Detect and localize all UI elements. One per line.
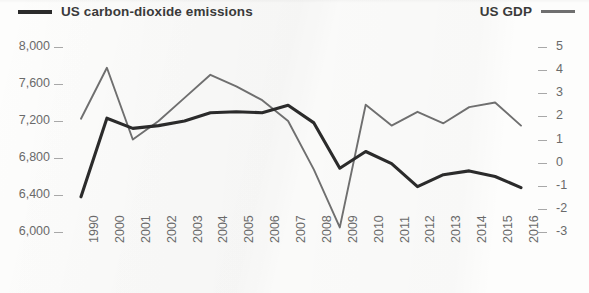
y-left-tick-label: 8,000 <box>6 39 50 53</box>
y-left-tick-mark <box>54 195 63 196</box>
x-axis-tick-label: 2014 <box>475 215 489 243</box>
line-swatch-icon-gdp <box>541 10 575 13</box>
plot-area: 8,0007,6007,2006,8006,4006,000 543210-1-… <box>0 30 589 240</box>
y-right-tick-mark <box>538 116 547 117</box>
line-series-gdp <box>81 68 521 228</box>
y-left-tick-label: 7,600 <box>6 76 50 90</box>
y-right-tick-label: 4 <box>556 62 586 76</box>
y-right-tick-mark <box>538 209 547 210</box>
x-axis-tick-label: 2016 <box>527 215 541 243</box>
chart-legend: US carbon-dioxide emissions US GDP <box>0 4 589 28</box>
y-left-tick-label: 6,400 <box>6 187 50 201</box>
y-right-tick-mark <box>538 186 547 187</box>
x-axis-tick-label: 2005 <box>242 215 256 243</box>
y-right-tick-mark <box>538 70 547 71</box>
y-left-tick-mark <box>54 47 63 48</box>
series-gdp-group <box>81 68 521 228</box>
y-left-tick-mark <box>54 232 63 233</box>
chart-figure: US carbon-dioxide emissions US GDP 8,000… <box>0 0 589 293</box>
y-right-tick-mark <box>538 163 547 164</box>
y-right-tick-label: -2 <box>556 201 586 215</box>
x-axis-tick-label: 2006 <box>268 215 282 243</box>
x-axis-tick-label: 2011 <box>398 216 412 243</box>
line-series-co2 <box>81 105 521 197</box>
x-axis-tick-label: 2015 <box>501 215 515 243</box>
y-right-tick-label: 2 <box>556 108 586 122</box>
y-left-tick-label: 6,000 <box>6 224 50 238</box>
y-right-tick-mark <box>538 140 547 141</box>
y-left-tick-label: 6,800 <box>6 150 50 164</box>
x-axis-tick-label: 2008 <box>320 215 334 243</box>
series-co2-group <box>81 105 521 197</box>
y-left-tick-mark <box>54 84 63 85</box>
x-axis-tick-label: 2009 <box>346 215 360 243</box>
legend-label-co2: US carbon-dioxide emissions <box>61 4 253 19</box>
y-left-tick-mark <box>54 121 63 122</box>
y-left-tick-label: 7,200 <box>6 113 50 127</box>
y-left-tick-mark <box>54 158 63 159</box>
x-axis-tick-label: 1990 <box>87 215 101 243</box>
x-axis-tick-label: 2003 <box>191 215 205 243</box>
y-right-tick-label: 1 <box>556 132 586 146</box>
y-right-tick-label: 0 <box>556 155 586 169</box>
x-axis-tick-label: 2000 <box>113 215 127 243</box>
x-axis-tick-label: 2010 <box>372 215 386 243</box>
x-axis-tick-label: 2013 <box>449 215 463 243</box>
x-axis-tick-label: 2012 <box>423 215 437 243</box>
y-right-tick-label: -3 <box>556 224 586 238</box>
legend-item-co2: US carbon-dioxide emissions <box>18 4 253 19</box>
y-right-tick-mark <box>538 93 547 94</box>
y-right-tick-label: -1 <box>556 178 586 192</box>
x-axis-tick-label: 2002 <box>165 215 179 243</box>
chart-svg <box>0 30 589 240</box>
legend-label-gdp: US GDP <box>480 4 532 19</box>
y-right-tick-label: 3 <box>556 85 586 99</box>
x-axis-tick-label: 2001 <box>139 215 153 243</box>
x-axis-tick-label: 2007 <box>294 215 308 243</box>
line-swatch-icon-co2 <box>18 10 52 14</box>
y-right-tick-mark <box>538 47 547 48</box>
x-axis-tick-label: 2004 <box>216 215 230 243</box>
legend-item-gdp: US GDP <box>480 4 575 19</box>
y-right-tick-label: 5 <box>556 39 586 53</box>
